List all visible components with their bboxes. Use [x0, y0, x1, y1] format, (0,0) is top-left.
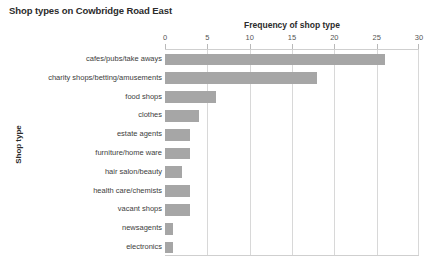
x-tick-label: 10	[245, 33, 253, 42]
category-label: health care/chemists	[18, 186, 162, 195]
chart-title: Shop types on Cowbridge Road East	[9, 5, 172, 16]
x-tick-label: 0	[163, 33, 167, 42]
bar-row[interactable]	[165, 91, 419, 103]
category-label: vacant shops	[18, 204, 162, 213]
bar-row[interactable]	[165, 72, 419, 84]
x-tick-label: 20	[330, 33, 338, 42]
bar-row[interactable]	[165, 110, 419, 122]
bar-row[interactable]	[165, 54, 419, 66]
bar[interactable]	[165, 204, 190, 216]
category-label: clothes	[18, 110, 162, 119]
bar-chart-figure: Shop types on Cowbridge Road East Freque…	[0, 0, 443, 267]
x-tick-label: 5	[205, 33, 209, 42]
x-axis-title: Frequency of shop type	[165, 20, 419, 30]
category-label: hair salon/beauty	[18, 167, 162, 176]
plot-area	[165, 49, 419, 256]
bar[interactable]	[165, 223, 173, 235]
bar-row[interactable]	[165, 242, 419, 254]
category-label: furniture/home ware	[18, 148, 162, 157]
bar[interactable]	[165, 129, 190, 141]
y-axis-category-labels: cafes/pubs/take awayscharity shops/betti…	[18, 49, 162, 256]
bar[interactable]	[165, 148, 190, 160]
x-tick-label: 30	[415, 33, 423, 42]
bar[interactable]	[165, 54, 385, 66]
bar-row[interactable]	[165, 185, 419, 197]
bar[interactable]	[165, 110, 199, 122]
category-label: newsagents	[18, 223, 162, 232]
bar[interactable]	[165, 72, 317, 84]
bar-row[interactable]	[165, 148, 419, 160]
bar-row[interactable]	[165, 129, 419, 141]
bar[interactable]	[165, 185, 190, 197]
category-label: food shops	[18, 92, 162, 101]
bar-row[interactable]	[165, 166, 419, 178]
bar-row[interactable]	[165, 223, 419, 235]
bar[interactable]	[165, 242, 173, 254]
category-label: charity shops/betting/amusements	[18, 73, 162, 82]
bar[interactable]	[165, 91, 216, 103]
bar-series	[165, 50, 419, 255]
category-label: cafes/pubs/take aways	[18, 54, 162, 63]
bar-row[interactable]	[165, 204, 419, 216]
category-label: electronics	[18, 242, 162, 251]
category-label: estate agents	[18, 129, 162, 138]
x-tick-label: 15	[288, 33, 296, 42]
x-tick-label: 25	[372, 33, 380, 42]
bar[interactable]	[165, 166, 182, 178]
